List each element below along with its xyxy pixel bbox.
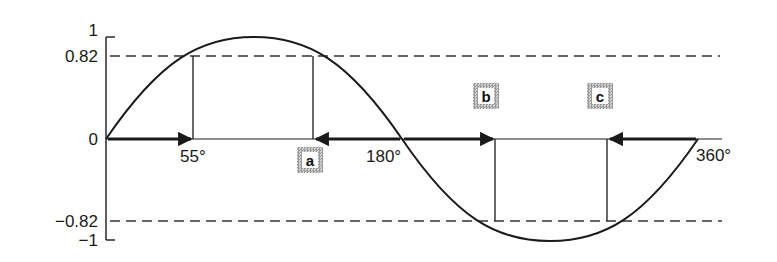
y-tick-0: 0 xyxy=(60,131,98,148)
x-label-180: 180° xyxy=(366,148,401,165)
marker-b-label: b xyxy=(478,88,494,104)
marker-a-label: a xyxy=(302,152,318,168)
y-tick-neg-1: −1 xyxy=(50,232,98,249)
marker-b: b xyxy=(473,83,499,109)
y-tick-0-82: 0.82 xyxy=(40,48,98,65)
sine-diagram-canvas xyxy=(0,0,777,262)
x-label-360: 360° xyxy=(696,147,731,164)
y-tick-1: 1 xyxy=(60,22,98,39)
y-tick-neg-0-82: −0.82 xyxy=(30,213,98,230)
marker-a: a xyxy=(297,147,323,173)
marker-c-label: c xyxy=(592,88,608,104)
marker-c: c xyxy=(587,83,613,109)
x-label-55: 55° xyxy=(180,148,206,165)
